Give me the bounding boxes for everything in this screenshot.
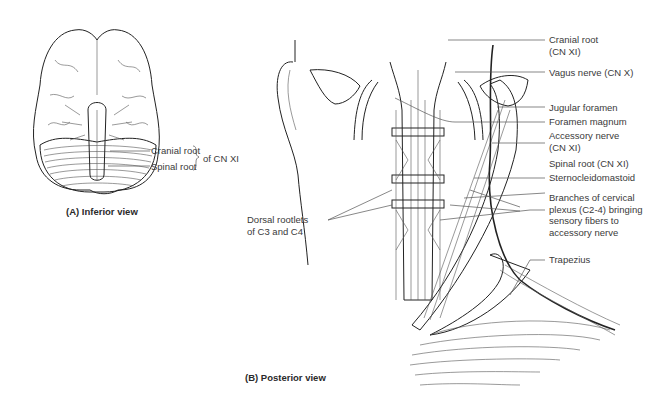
caption-inferior-view: (A) Inferior view xyxy=(66,206,138,217)
label-line: (CN XI) xyxy=(549,142,581,153)
label-line: plexus (C2-4) bringing xyxy=(549,204,642,215)
label-cranial-root-a: Cranial root xyxy=(151,145,200,157)
label-foramen-magnum: Foramen magnum xyxy=(549,116,627,128)
label-line: Accessory nerve xyxy=(549,130,619,141)
label-sternocleidomastoid: Sternocleidomastoid xyxy=(549,172,635,184)
label-of-cn-xi: of CN XI xyxy=(203,153,239,165)
label-line: of C3 and C4 xyxy=(247,226,303,237)
label-vagus-nerve: Vagus nerve (CN X) xyxy=(549,67,633,79)
label-dorsal-rootlets: Dorsal rootlets of C3 and C4 xyxy=(247,214,308,237)
label-spinal-root-a: Spinal root xyxy=(151,161,196,173)
label-accessory-nerve: Accessory nerve (CN XI) xyxy=(549,130,619,153)
label-line: Branches of cervical xyxy=(549,192,635,203)
label-spinal-root-b: Spinal root (CN XI) xyxy=(549,158,629,170)
label-line: accessory nerve xyxy=(549,227,618,238)
label-line: sensory fibers to xyxy=(549,215,619,226)
caption-posterior-view: (B) Posterior view xyxy=(245,372,326,383)
label-line: Dorsal rootlets xyxy=(247,214,308,225)
label-cranial-root-b: Cranial root (CN XI) xyxy=(549,34,598,57)
label-line: Cranial root xyxy=(549,34,598,45)
label-cervical-plexus-branches: Branches of cervical plexus (C2-4) bring… xyxy=(549,192,642,238)
label-line: (CN XI) xyxy=(549,46,581,57)
label-jugular-foramen: Jugular foramen xyxy=(549,102,618,114)
label-trapezius: Trapezius xyxy=(549,254,590,266)
